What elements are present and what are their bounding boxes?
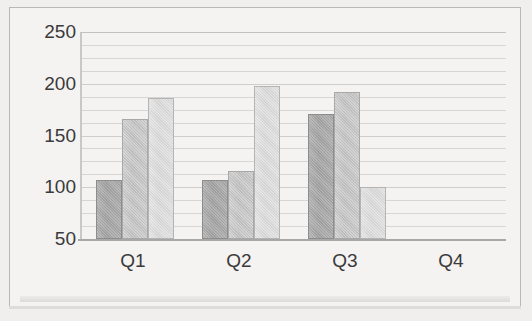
- y-axis-labels: 25020015010050: [24, 8, 76, 308]
- chart-frame: 25020015010050 Q1Q2Q3Q4: [9, 7, 521, 307]
- scan-artifact-band: [20, 296, 510, 302]
- y-axis-tick-label: 50: [24, 228, 76, 250]
- x-axis-tick-label: Q4: [398, 246, 504, 280]
- plot-area: [80, 32, 506, 239]
- bar[interactable]: [202, 180, 228, 239]
- bar[interactable]: [308, 114, 334, 239]
- bar[interactable]: [228, 171, 254, 239]
- bar[interactable]: [360, 187, 386, 239]
- y-axis-tick-label: 100: [24, 176, 76, 198]
- bar[interactable]: [96, 180, 122, 239]
- bar-group-q3: [294, 32, 400, 239]
- bar[interactable]: [122, 119, 148, 239]
- bar-group-q1: [82, 32, 188, 239]
- bar-group-q4: [400, 32, 506, 239]
- y-axis-tick-label: 200: [24, 73, 76, 95]
- x-axis-line: [78, 239, 506, 241]
- bar[interactable]: [334, 92, 360, 239]
- screenshot-page: 25020015010050 Q1Q2Q3Q4: [0, 0, 532, 321]
- x-axis-tick-label: Q1: [80, 246, 186, 280]
- y-axis-tick-label: 250: [24, 21, 76, 43]
- x-axis-tick-label: Q2: [186, 246, 292, 280]
- x-axis-tick-label: Q3: [292, 246, 398, 280]
- bar-groups: [82, 32, 506, 239]
- y-axis-tick-label: 150: [24, 125, 76, 147]
- x-axis-labels: Q1Q2Q3Q4: [80, 246, 504, 280]
- bar-chart: 25020015010050 Q1Q2Q3Q4: [10, 8, 522, 308]
- bar-group-q2: [188, 32, 294, 239]
- bar[interactable]: [148, 98, 174, 239]
- bar[interactable]: [254, 86, 280, 239]
